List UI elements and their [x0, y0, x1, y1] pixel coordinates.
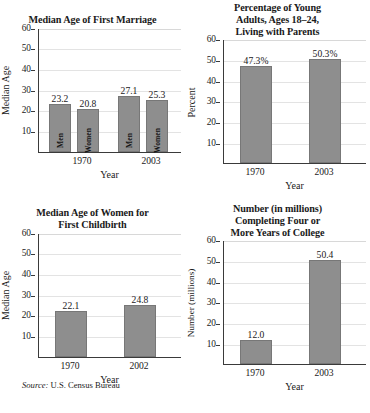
plot-area: Number (millions) 60 50 40 30 20 10	[185, 241, 370, 389]
y-tick-label: 30	[22, 291, 31, 300]
y-tick-label: 50	[207, 56, 216, 65]
chart-panel-young-adults-living-with-parents: Percentage of Young Adults, Ages 18–24, …	[185, 2, 370, 188]
chart-title-line: Number (in millions)	[191, 203, 364, 215]
x-axis-categories: 1970 2003	[223, 166, 366, 180]
y-tick-label: 60	[207, 237, 216, 246]
y-tick-label: 20	[207, 118, 216, 127]
y-axis-ticks: 60 50 40 30 20 10	[13, 234, 34, 358]
x-axis-categories: 1970 2003	[38, 155, 181, 169]
y-axis-label: Percent	[184, 40, 198, 164]
x-tick-label: 2003	[294, 367, 354, 378]
bar: 50.3%	[309, 59, 341, 163]
y-tick-label: 50	[22, 45, 31, 54]
bar-inner-label: Women	[78, 136, 98, 145]
x-tick-label: 1970	[225, 166, 285, 177]
x-axis-label: Year	[223, 381, 366, 392]
plot-frame: 22.1 24.8	[38, 234, 181, 358]
x-tick-label: 2003	[294, 166, 354, 177]
y-tick-label: 40	[207, 77, 216, 86]
x-tick-label: 1970	[40, 360, 100, 371]
y-axis-ticks: 60 50 40 30 20 10	[13, 29, 34, 153]
source-text: U.S. Census Bureau	[48, 380, 119, 390]
y-tick-label: 10	[207, 139, 216, 148]
bar: 27.1 Men	[118, 96, 140, 152]
bar-value-label: 50.3%	[298, 48, 352, 59]
bar-inner-label: Women	[147, 136, 167, 145]
plot-frame: 47.3% 50.3%	[223, 40, 366, 164]
chart-title-line: More Years of College	[191, 227, 364, 239]
x-tick-label: 2003	[121, 155, 181, 166]
chart-title-line: Percentage of Young	[191, 2, 364, 14]
chart-title-line: Median Age of Women for	[6, 207, 179, 219]
y-tick-label: 60	[22, 24, 31, 33]
chart-title-line: Completing Four or	[191, 215, 364, 227]
bar-value-label: 24.8	[113, 294, 167, 305]
bar: 24.8	[124, 305, 156, 356]
source-note: Source: U.S. Census Bureau	[22, 380, 120, 390]
y-axis-ticks: 60 50 40 30 20 10	[198, 241, 219, 365]
y-tick-label: 30	[207, 98, 216, 107]
y-tick-label: 10	[207, 340, 216, 349]
bar-series: 47.3% 50.3%	[224, 39, 366, 163]
y-axis-label: Number (millions)	[184, 241, 198, 365]
x-tick-label: 1970	[52, 155, 112, 166]
y-tick-label: 50	[22, 250, 31, 259]
bar-value-label: 12.0	[229, 329, 283, 340]
x-axis-label: Year	[38, 169, 181, 180]
y-tick-label: 20	[207, 319, 216, 328]
chart-title: Percentage of Young Adults, Ages 18–24, …	[191, 2, 364, 37]
bar-series: 23.2 Men 20.8 Women 27.1 Men 25.3 Women	[39, 28, 181, 152]
x-axis-categories: 1970 2003	[223, 367, 366, 381]
x-tick-label: 2002	[109, 360, 169, 371]
bar: 12.0	[240, 340, 272, 365]
y-tick-label: 60	[207, 36, 216, 45]
y-tick-label: 10	[22, 332, 31, 341]
chart-panel-median-age-women-first-childbirth: Median Age of Women for First Childbirth…	[0, 207, 185, 382]
x-axis-categories: 1970 2002	[38, 360, 181, 374]
y-tick-label: 40	[22, 270, 31, 279]
chart-title-line: First Childbirth	[6, 219, 179, 231]
x-axis-label: Year	[223, 180, 366, 191]
x-tick-label: 1970	[225, 367, 285, 378]
source-label: Source:	[22, 380, 48, 390]
bar-series: 22.1 24.8	[39, 233, 181, 357]
plot-frame: 23.2 Men 20.8 Women 27.1 Men 25.3 Women	[38, 29, 181, 153]
bar: 20.8 Women	[77, 109, 99, 152]
bar-inner-label: Men	[50, 136, 70, 145]
bar-inner-label: Men	[119, 136, 139, 145]
y-axis-label: Median Age	[0, 29, 13, 153]
chart-title: Median Age of First Marriage	[6, 14, 179, 26]
plot-area: Median Age 60 50 40 30 20 10 22.1	[0, 234, 185, 382]
y-tick-label: 20	[22, 107, 31, 116]
y-tick-label: 40	[207, 278, 216, 287]
y-tick-label: 10	[22, 127, 31, 136]
chart-title-line: Median Age of First Marriage	[6, 14, 179, 26]
bar-value-label: 47.3%	[229, 55, 283, 66]
y-tick-label: 30	[207, 299, 216, 308]
bar-value-label: 20.8	[66, 98, 110, 109]
chart-title: Number (in millions) Completing Four or …	[191, 203, 364, 238]
bar-value-label: 22.1	[44, 300, 98, 311]
bar: 25.3 Women	[146, 100, 168, 152]
bar: 23.2 Men	[49, 104, 71, 152]
chart-title: Median Age of Women for First Childbirth	[6, 207, 179, 231]
chart-title-line: Living with Parents	[191, 26, 364, 38]
y-tick-label: 30	[22, 86, 31, 95]
y-tick-label: 60	[22, 229, 31, 238]
bar: 47.3%	[240, 66, 272, 164]
bar: 50.4	[309, 260, 341, 364]
y-tick-label: 50	[207, 257, 216, 266]
plot-area: Percent 60 50 40 30 20 10 47.3%	[185, 40, 370, 188]
bar-series: 12.0 50.4	[224, 240, 366, 364]
bar-value-label: 50.4	[298, 249, 352, 260]
chart-title-line: Adults, Ages 18–24,	[191, 14, 364, 26]
y-tick-label: 40	[22, 65, 31, 74]
chart-panel-median-age-first-marriage: Median Age of First Marriage Median Age …	[0, 14, 185, 177]
plot-frame: 12.0 50.4	[223, 241, 366, 365]
plot-area: Median Age 60 50 40 30 20 10 23.2	[0, 29, 185, 177]
y-axis-label: Median Age	[0, 234, 13, 358]
y-axis-ticks: 60 50 40 30 20 10	[198, 40, 219, 164]
bar-value-label: 25.3	[135, 89, 179, 100]
chart-panel-completing-four-or-more-years-college: Number (in millions) Completing Four or …	[185, 203, 370, 389]
bar: 22.1	[55, 311, 87, 357]
